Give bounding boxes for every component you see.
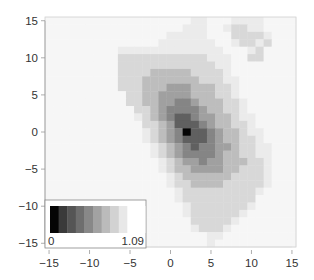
heatmap-cell — [256, 91, 265, 99]
heatmap-cell — [53, 143, 62, 151]
heatmap-cell — [207, 180, 216, 188]
heatmap-cell — [158, 136, 167, 144]
heatmap-cell — [134, 39, 143, 47]
heatmap-cell — [53, 173, 62, 181]
heatmap-cell — [110, 84, 119, 92]
heatmap-cell — [264, 24, 273, 32]
heatmap-cell — [272, 106, 281, 114]
heatmap-cell — [191, 84, 200, 92]
heatmap-cell — [272, 47, 281, 55]
heatmap-cell — [280, 217, 289, 225]
heatmap-cell — [256, 121, 265, 129]
heatmap-cell — [53, 151, 62, 159]
heatmap-cell — [272, 24, 281, 32]
heatmap-cell — [77, 128, 86, 136]
heatmap-cell — [134, 106, 143, 114]
heatmap-cell — [102, 165, 111, 173]
heatmap-cell — [223, 225, 232, 233]
heatmap-cell — [183, 217, 192, 225]
heatmap-cell — [77, 62, 86, 70]
heatmap-cell — [110, 54, 119, 62]
heatmap-cell — [45, 47, 54, 55]
heatmap-cell — [45, 136, 54, 144]
heatmap-cell — [77, 91, 86, 99]
heatmap-cell — [191, 143, 200, 151]
heatmap-cell — [110, 180, 119, 188]
heatmap-cell — [118, 136, 127, 144]
heatmap-cell — [199, 128, 208, 136]
heatmap-cell — [272, 225, 281, 233]
heatmap-cell — [183, 24, 192, 32]
heatmap-cell — [280, 54, 289, 62]
heatmap-cell — [223, 180, 232, 188]
heatmap-cell — [280, 143, 289, 151]
heatmap-cell — [102, 151, 111, 159]
heatmap-cell — [110, 113, 119, 121]
heatmap-cell — [175, 188, 184, 196]
heatmap-cell — [256, 76, 265, 84]
heatmap-cell — [126, 106, 135, 114]
heatmap-cell — [94, 151, 103, 159]
heatmap-cell — [272, 173, 281, 181]
heatmap-cell — [183, 62, 192, 70]
heatmap-cell — [134, 180, 143, 188]
heatmap-cell — [134, 24, 143, 32]
heatmap-cell — [166, 17, 175, 25]
heatmap-cell — [191, 158, 200, 166]
heatmap-cell — [199, 106, 208, 114]
heatmap-cell — [158, 32, 167, 40]
heatmap-cell — [61, 69, 70, 77]
heatmap-cell — [215, 106, 224, 114]
heatmap-cell — [69, 180, 78, 188]
heatmap-cell — [94, 47, 103, 55]
heatmap-cell — [207, 173, 216, 181]
heatmap-cell — [53, 121, 62, 129]
heatmap-cell — [94, 54, 103, 62]
heatmap-cell — [126, 173, 135, 181]
heatmap-cell — [85, 84, 94, 92]
heatmap-cell — [191, 17, 200, 25]
heatmap-cell — [183, 180, 192, 188]
heatmap-cell — [94, 136, 103, 144]
heatmap-cell — [272, 188, 281, 196]
heatmap-cell — [126, 165, 135, 173]
heatmap-cell — [142, 173, 151, 181]
heatmap-cell — [166, 180, 175, 188]
heatmap-cell — [53, 32, 62, 40]
heatmap-cell — [118, 173, 127, 181]
heatmap-cell — [207, 210, 216, 218]
heatmap-cell — [69, 69, 78, 77]
heatmap-cell — [280, 136, 289, 144]
heatmap-cell — [231, 136, 240, 144]
heatmap-cell — [175, 232, 184, 240]
heatmap-cell — [45, 91, 54, 99]
heatmap-cell — [199, 17, 208, 25]
heatmap-cell — [199, 232, 208, 240]
heatmap-cell — [207, 158, 216, 166]
heatmap-cell — [264, 202, 273, 210]
heatmap-cell — [158, 69, 167, 77]
heatmap-cell — [288, 84, 297, 92]
heatmap-cell — [239, 210, 248, 218]
heatmap-cell — [85, 54, 94, 62]
heatmap-cell — [102, 128, 111, 136]
heatmap-cell — [166, 173, 175, 181]
heatmap-cell — [85, 17, 94, 25]
heatmap-cell — [264, 99, 273, 107]
heatmap-cell — [142, 113, 151, 121]
heatmap-cell — [239, 173, 248, 181]
heatmap-cell — [150, 84, 159, 92]
heatmap-cell — [53, 106, 62, 114]
heatmap-cell — [280, 225, 289, 233]
heatmap-cell — [158, 62, 167, 70]
heatmap-cell — [223, 121, 232, 129]
heatmap-cell — [45, 143, 54, 151]
legend-swatches — [50, 206, 145, 233]
heatmap-cell — [150, 217, 159, 225]
heatmap-cell — [207, 113, 216, 121]
heatmap-cell — [272, 232, 281, 240]
heatmap-cell — [175, 84, 184, 92]
heatmap-cell — [264, 113, 273, 121]
heatmap-cell — [215, 121, 224, 129]
heatmap-cell — [61, 165, 70, 173]
